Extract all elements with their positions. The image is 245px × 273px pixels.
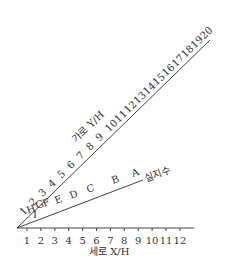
lower-scale-label: 실지수 [143, 164, 172, 184]
x-tick-label: 12 [174, 235, 187, 246]
upper-tick-label: 6 [65, 159, 77, 171]
x-tick-label: 1 [24, 235, 30, 246]
upper-tick-label: 5 [55, 168, 67, 180]
lower-letter-label: C [85, 182, 96, 195]
x-tick-label: 2 [38, 235, 44, 246]
room-index-nomogram: 123456789101112 123456789101112131415161… [0, 0, 245, 273]
x-tick-label: 5 [79, 235, 85, 246]
upper-tick-label: 9 [93, 131, 105, 143]
x-tick-label: 4 [66, 235, 72, 246]
x-tick-label: 6 [93, 235, 99, 246]
x-tick-label: 9 [135, 235, 141, 246]
x-tick-label: 3 [52, 235, 58, 246]
lower-letter-label: A [129, 166, 141, 179]
upper-tick-label: 8 [84, 140, 96, 152]
lower-letter-label: B [110, 173, 121, 186]
x-tick-label: 8 [121, 235, 127, 246]
x-tick-label: 11 [160, 235, 173, 246]
x-tick-label: 7 [107, 235, 113, 246]
upper-tick-label: 4 [46, 177, 58, 189]
x-axis-label: 세로 X/H [89, 246, 130, 257]
x-tick-label: 10 [146, 235, 159, 246]
upper-tick-label: 7 [74, 149, 86, 161]
lower-letter-label: D [68, 188, 79, 201]
lower-letter-label: E [53, 193, 64, 206]
